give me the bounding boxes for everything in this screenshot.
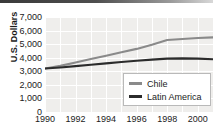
series-line-chile xyxy=(45,37,213,68)
legend-label: Chile xyxy=(147,79,168,89)
y-axis-tick-label: 6,000 xyxy=(6,26,42,36)
y-axis-tick-label: 7,000 xyxy=(6,12,42,22)
y-axis-tick-label: 5,000 xyxy=(6,39,42,49)
legend-swatch-icon xyxy=(129,82,142,85)
chart-figure: U.S. Dollars 7,0006,0005,0004,0003,0002,… xyxy=(0,0,213,130)
legend-swatch-icon xyxy=(129,95,142,98)
x-axis-tick-label: 2000 xyxy=(178,114,213,125)
y-axis-tick-label: 3,000 xyxy=(6,66,42,76)
legend-entry[interactable]: Latin America xyxy=(124,90,210,103)
legend-entry[interactable]: Chile xyxy=(124,77,210,90)
y-axis-tick-label: 4,000 xyxy=(6,53,42,63)
page-edge-bar xyxy=(0,0,213,3)
y-axis-tick-label: 2,000 xyxy=(6,80,42,90)
y-axis-tick-labels: 7,0006,0005,0004,0003,0002,0001,0000 xyxy=(6,12,42,113)
legend-label: Latin America xyxy=(147,92,202,102)
chart-legend: ChileLatin America xyxy=(123,73,211,106)
x-axis-tick-labels: 199019921994199619982000 xyxy=(0,114,213,128)
y-axis-tick-label: 1,000 xyxy=(6,93,42,103)
